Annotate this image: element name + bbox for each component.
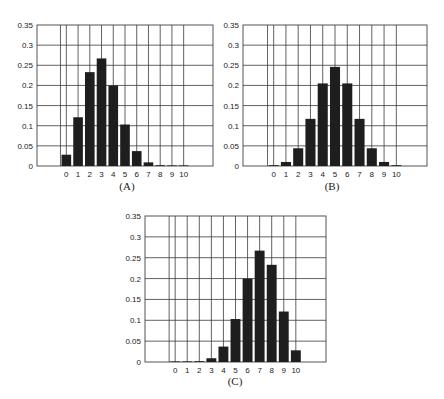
y-tick-label: 0.2 bbox=[130, 275, 142, 284]
x-tick-label: 2 bbox=[197, 366, 202, 375]
x-tick-label: 4 bbox=[221, 366, 226, 375]
bar bbox=[170, 361, 180, 362]
chart-c: 00.050.10.150.20.250.30.35012345678910 (… bbox=[0, 0, 444, 399]
y-tick-label: 0.3 bbox=[130, 233, 142, 242]
chart-c-plot: 00.050.10.150.20.250.30.35012345678910 bbox=[0, 0, 444, 399]
x-tick-label: 1 bbox=[185, 366, 190, 375]
bar bbox=[182, 361, 192, 362]
bar bbox=[291, 350, 301, 362]
bar bbox=[206, 358, 216, 362]
x-tick-label: 8 bbox=[269, 366, 274, 375]
bar bbox=[255, 251, 265, 362]
bar bbox=[218, 347, 228, 362]
y-tick-label: 0.1 bbox=[130, 316, 142, 325]
x-tick-label: 7 bbox=[257, 366, 262, 375]
x-tick-label: 6 bbox=[245, 366, 250, 375]
x-tick-label: 0 bbox=[173, 366, 178, 375]
bar bbox=[194, 361, 204, 362]
y-tick-label: 0.05 bbox=[125, 337, 141, 346]
x-tick-label: 3 bbox=[209, 366, 214, 375]
panel-label-c: (C) bbox=[215, 375, 255, 387]
x-tick-label: 10 bbox=[291, 366, 300, 375]
x-tick-label: 9 bbox=[282, 366, 287, 375]
y-tick-label: 0.25 bbox=[125, 254, 141, 263]
y-tick-label: 0.15 bbox=[125, 295, 141, 304]
y-tick-label: 0.35 bbox=[125, 212, 141, 221]
bar bbox=[231, 319, 241, 362]
x-tick-label: 5 bbox=[233, 366, 238, 375]
y-tick-label: 0 bbox=[137, 358, 142, 367]
bar bbox=[243, 279, 253, 362]
bar bbox=[267, 265, 277, 362]
bar bbox=[279, 312, 289, 362]
